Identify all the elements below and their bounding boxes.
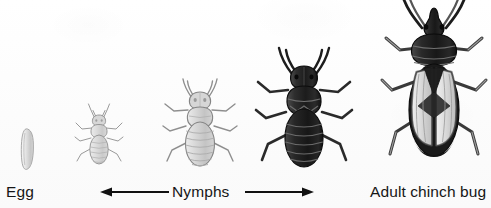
nymphs-range-arrow xyxy=(96,183,318,201)
stage-figure-adult xyxy=(378,0,490,176)
stage-figure-nymph-2 xyxy=(158,76,242,176)
stage-figure-nymph-3 xyxy=(252,46,356,176)
stage-figure-nymph-1 xyxy=(70,102,128,174)
adult-chinch-bug-illustration xyxy=(378,0,490,176)
label-adult-chinch-bug: Adult chinch bug xyxy=(370,184,486,200)
first-instar-nymph-illustration xyxy=(70,102,128,174)
stage-figure-egg xyxy=(14,126,42,174)
second-instar-nymph-illustration xyxy=(158,76,242,176)
third-instar-nymph-illustration xyxy=(252,46,356,176)
chinch-bug-life-cycle-illustration: Egg Nymphs Adult chinch bug xyxy=(0,0,491,208)
label-egg: Egg xyxy=(6,184,34,200)
egg-illustration xyxy=(14,126,42,174)
